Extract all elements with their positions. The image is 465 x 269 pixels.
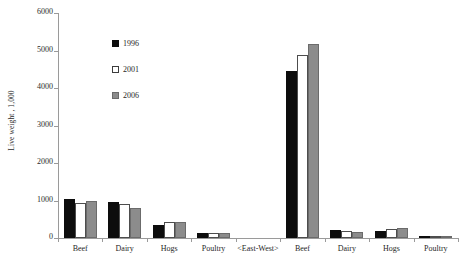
y-tick-group: 1000 [58,201,59,202]
y-tick-label: 1000 [19,195,53,204]
y-tick-label: 5000 [19,45,53,54]
y-tick-group: 5000 [58,51,59,52]
x-tick-mark [191,238,192,242]
bar-group [242,13,275,238]
x-category-label: <East-West> [236,244,280,253]
bar-1996-hogs [153,225,164,238]
x-tick-mark [147,238,148,242]
bar-group [330,13,363,238]
legend-label-2001: 2001 [123,65,139,74]
x-axis-line [58,238,458,239]
y-tick-label: 2000 [19,157,53,166]
bar-group [197,13,230,238]
x-category-label: Dairy [102,244,146,253]
legend-swatch-1996 [112,40,119,47]
x-category-label: Poultry [414,244,458,253]
bar-1996-beef [286,71,297,238]
y-tick-mark [54,126,59,127]
x-category-label: Poultry [191,244,235,253]
y-tick-label: 0 [19,232,53,241]
bar-2006-hogs [175,222,186,239]
y-tick-group: 3000 [58,126,59,127]
x-category-label: Hogs [147,244,191,253]
bar-1996-poultry [419,236,430,238]
y-tick-mark [54,163,59,164]
y-tick-label: 6000 [19,7,53,16]
y-tick-label: 3000 [19,120,53,129]
x-tick-mark [414,238,415,242]
bar-1996-dairy [108,202,119,238]
bar-2006-dairy [352,232,363,238]
legend-item-2006: 2006 [112,82,182,108]
legend-swatch-2006 [112,92,119,99]
bar-2001-poultry [208,233,219,238]
bar-2001-beef [297,55,308,238]
x-tick-mark [325,238,326,242]
legend-item-1996: 1996 [112,30,182,56]
bar-1996-hogs [375,231,386,239]
y-tick-group: 4000 [58,88,59,89]
bar-2006-hogs [397,228,408,238]
x-tick-mark [458,238,459,242]
y-axis-title-text: Live weight , 1,000 [7,90,16,150]
legend-swatch-2001 [112,66,119,73]
legend-label-1996: 1996 [123,39,139,48]
bar-1996-poultry [197,233,208,238]
x-tick-mark [369,238,370,242]
x-tick-mark [102,238,103,242]
bar-group [64,13,97,238]
bar-2001-dairy [119,204,130,238]
y-tick-label: 4000 [19,82,53,91]
bar-2006-beef [308,44,319,238]
bar-1996-beef [64,199,75,238]
x-category-label: Hogs [369,244,413,253]
x-tick-mark [236,238,237,242]
legend: 1996 2001 2006 [112,30,182,108]
bar-2001-dairy [341,231,352,238]
bar-2006-beef [86,201,97,238]
bar-2006-dairy [130,208,141,238]
y-tick-mark [54,201,59,202]
y-tick-mark [54,13,59,14]
x-tick-mark [58,238,59,242]
bar-group [419,13,452,238]
x-category-label: Dairy [325,244,369,253]
bar-group [286,13,319,238]
bar-2006-poultry [219,233,230,238]
bar-2001-beef [75,203,86,238]
y-tick-mark [54,88,59,89]
bar-1996-dairy [330,230,341,238]
bar-2001-hogs [386,229,397,238]
bar-2001-hogs [164,222,175,239]
x-category-label: Beef [58,244,102,253]
bar-2001-poultry [430,236,441,238]
bar-2006-poultry [441,236,452,238]
x-tick-mark [280,238,281,242]
legend-label-2006: 2006 [123,91,139,100]
y-tick-group: 6000 [58,13,59,14]
y-tick-group: 2000 [58,163,59,164]
y-tick-mark [54,51,59,52]
bar-chart: Live weight , 1,000 01000200030004000500… [0,0,465,269]
legend-item-2001: 2001 [112,56,182,82]
x-category-label: Beef [280,244,324,253]
bar-group [375,13,408,238]
